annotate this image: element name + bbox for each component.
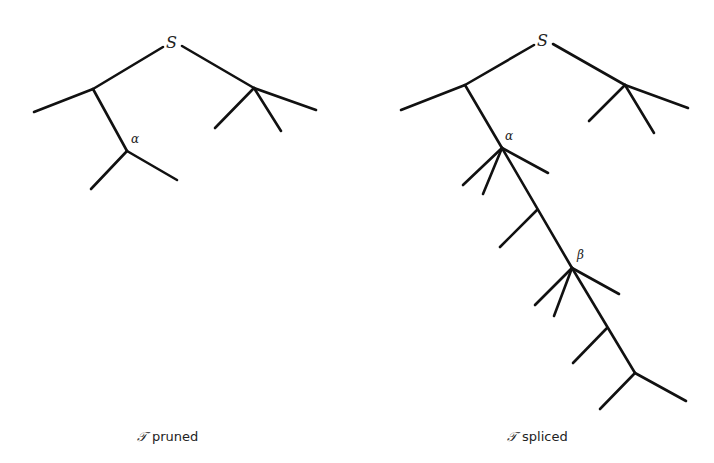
caption-spliced-text: spliced xyxy=(522,429,568,444)
root-label-s: S xyxy=(537,33,548,49)
node-label-alpha: α xyxy=(505,130,513,142)
caption-spliced: 𝒯spliced xyxy=(507,429,568,445)
node-label-beta: β xyxy=(577,249,584,261)
script-t-symbol: 𝒯 xyxy=(507,429,517,444)
tree-spliced-edges xyxy=(0,0,714,463)
